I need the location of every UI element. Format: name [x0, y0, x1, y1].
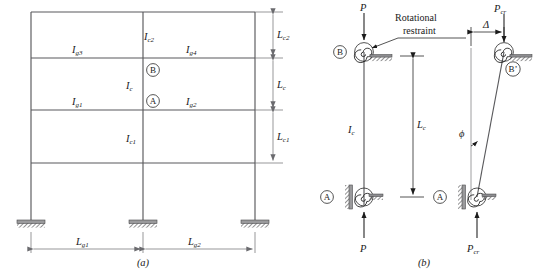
svg-text:A: A — [437, 192, 444, 202]
rotational-spring-spiral — [354, 48, 371, 62]
svg-text:B: B — [337, 47, 343, 57]
label-ig3: Ig3 — [71, 44, 83, 57]
restraint-bar — [370, 55, 392, 58]
joint-marker-a-buckled: A — [434, 191, 447, 204]
support-wall-hatching-buckled — [458, 185, 462, 209]
support-base-right — [241, 220, 269, 228]
figure-canvas: Ic2 Ig3 Ig4 Ic Ig1 Ig2 Ic1 — [0, 0, 550, 271]
load-label-p-top: P — [359, 2, 367, 13]
dimension-label-lc2: Lc2 — [276, 29, 290, 42]
svg-text:A: A — [150, 96, 157, 106]
rotational-restraint-callout: Rotational restraint — [372, 12, 466, 48]
load-label-p-bottom: P — [359, 243, 367, 254]
dimension-label-delta: Δ — [482, 19, 489, 30]
joint-marker-b-prime-buckled: B’ — [506, 62, 520, 76]
panel-a-group: Ic2 Ig3 Ig4 Ic Ig1 Ig2 Ic1 — [17, 12, 290, 269]
svg-text:B: B — [150, 65, 156, 75]
sway-dimension-delta: Δ — [471, 19, 504, 46]
top-hinge-spring-assembly — [354, 43, 392, 63]
label-ig2: Ig2 — [185, 96, 197, 109]
support-base-center — [129, 220, 157, 228]
horizontal-dimension-chain: Lg1 Lg2 — [31, 232, 255, 253]
svg-text:B’: B’ — [509, 64, 518, 74]
label-ic2: Ic2 — [143, 31, 155, 44]
panel-b-group: P B Rotatio — [321, 2, 532, 269]
angle-arc-phi — [471, 142, 478, 147]
dimension-label-lc-panel-b: Lc — [416, 119, 427, 132]
label-ic1: Ic1 — [125, 133, 136, 146]
undeformed-column-group: P B Rotatio — [321, 2, 466, 254]
restraint-hatching — [370, 57, 392, 61]
support-wall-plate — [349, 185, 352, 209]
joint-marker-b-panel-a: B — [147, 64, 160, 77]
support-wall-plate-buckled — [462, 185, 465, 209]
dimension-label-lg2: Lg2 — [187, 236, 201, 249]
column-label-ic-undeformed: Ic — [347, 124, 356, 137]
label-ic: Ic — [125, 80, 134, 93]
buckled-column-group: Pcr Δ — [434, 3, 532, 256]
label-ig1: Ig1 — [71, 96, 83, 109]
panel-b-caption: (b) — [418, 257, 431, 269]
joint-marker-b-undeformed: B — [334, 46, 347, 59]
callout-text-line2: restraint — [403, 25, 436, 36]
top-hinge-spring-assembly-buckled — [494, 43, 532, 63]
column-member-buckled — [477, 52, 504, 197]
support-wall-hatching — [345, 185, 349, 209]
joint-marker-a-undeformed: A — [321, 191, 334, 204]
svg-text:A: A — [324, 192, 331, 202]
joint-marker-a-panel-a: A — [147, 95, 160, 108]
angle-label-phi: ϕ — [459, 128, 465, 139]
restraint-hatching-buckled — [510, 57, 532, 61]
dimension-label-lc1: Lc1 — [276, 131, 289, 144]
dimension-label-lg1: Lg1 — [75, 236, 89, 249]
load-label-pcr-top: Pcr — [493, 3, 507, 16]
load-label-pcr-bottom: Pcr — [466, 243, 480, 256]
label-ig4: Ig4 — [185, 44, 197, 57]
dimension-label-lc: Lc — [276, 79, 287, 92]
restraint-bar-buckled — [510, 55, 532, 58]
panel-a-caption: (a) — [137, 257, 150, 269]
callout-text-line1: Rotational — [395, 12, 437, 23]
rotation-angle-phi-indicator: ϕ — [459, 128, 478, 146]
support-base-left — [17, 220, 45, 228]
vertical-dimension-chain: Lc2 Lc Lc1 — [255, 12, 290, 163]
callout-leader-line — [372, 38, 466, 48]
figure-container: Ic2 Ig3 Ig4 Ic Ig1 Ig2 Ic1 — [0, 0, 550, 271]
length-dimension-lc-panel-b: Lc — [400, 56, 427, 197]
